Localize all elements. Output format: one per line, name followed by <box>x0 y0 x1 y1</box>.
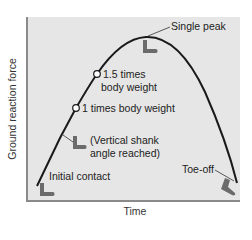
label-toe-off: Toe-off <box>182 163 214 175</box>
marker-1-5-body-weight <box>94 71 101 78</box>
foot-icon-initial-contact <box>40 183 55 196</box>
vertical-shank-leader <box>63 135 73 142</box>
label-single-peak: Single peak <box>171 20 226 32</box>
marker-1-body-weight <box>73 105 80 112</box>
x-axis-label: Time <box>110 205 160 217</box>
foot-icon-peak <box>143 40 158 53</box>
label-body-weight: body weight <box>101 81 157 93</box>
foot-icon-vertical-shank <box>73 136 87 149</box>
label-1-times-body-weight: 1 times body weight <box>82 102 175 114</box>
single-peak-leader <box>148 27 170 36</box>
toe-off-leader <box>215 170 234 181</box>
y-axis-label: Ground reaction force <box>6 54 18 164</box>
label-1-5-times: 1.5 times <box>103 68 146 80</box>
label-initial-contact: Initial contact <box>49 170 110 182</box>
label-angle-reached: angle reached) <box>90 147 160 159</box>
label-vertical-shank: (Vertical shank <box>90 134 159 146</box>
